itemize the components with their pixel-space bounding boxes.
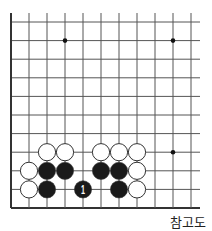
white-stone bbox=[128, 162, 145, 179]
white-stone bbox=[56, 144, 73, 161]
star-point bbox=[171, 150, 176, 155]
white-stone bbox=[20, 162, 37, 179]
white-stone bbox=[38, 144, 55, 161]
star-point bbox=[63, 38, 68, 43]
black-stone bbox=[38, 181, 55, 198]
move-number-label: 1 bbox=[81, 183, 85, 196]
diagram-caption: 참고도 bbox=[170, 212, 206, 231]
black-stone bbox=[56, 162, 73, 179]
black-stone bbox=[110, 181, 127, 198]
go-board: 1 bbox=[0, 0, 212, 212]
black-stone bbox=[92, 162, 109, 179]
white-stone bbox=[110, 144, 127, 161]
black-stone bbox=[38, 162, 55, 179]
black-stone bbox=[110, 162, 127, 179]
white-stone bbox=[128, 181, 145, 198]
white-stone bbox=[20, 181, 37, 198]
star-point bbox=[171, 38, 176, 43]
white-stone bbox=[92, 144, 109, 161]
white-stone bbox=[128, 144, 145, 161]
